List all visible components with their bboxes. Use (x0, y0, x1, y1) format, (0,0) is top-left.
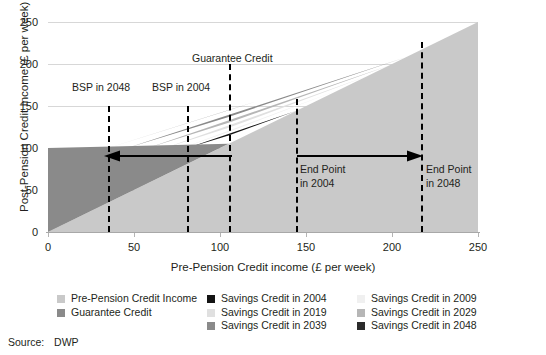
chart-figure: Post-Pension Credit Income (£ per week) … (0, 0, 546, 355)
marker-line-bsp-2048 (108, 106, 110, 232)
marker-line-bsp-2004 (187, 106, 189, 232)
marker-line-guarantee-credit (229, 64, 231, 232)
legend-swatch-pre-pension-credit-income (57, 295, 65, 303)
annotation-end-point-2004-line1: End Point (300, 163, 346, 176)
legend-label-savings-credit-2004: Savings Credit in 2004 (221, 292, 327, 306)
legend-item-savings-credit-2029: Savings Credit in 2029 (357, 306, 477, 320)
legend-label-savings-credit-2029: Savings Credit in 2029 (371, 306, 477, 320)
arrow-right-endpoint-range (295, 150, 423, 162)
annotation-guarantee-credit: Guarantee Credit (192, 52, 273, 65)
annotation-bsp-2004: BSP in 2004 (152, 81, 210, 94)
legend-item-guarantee-credit: Guarantee Credit (57, 306, 197, 320)
marker-line-end-point-2004 (296, 99, 298, 232)
legend-label-guarantee-credit: Guarantee Credit (71, 306, 152, 320)
y-axis-title: Post-Pension Credit Income (£ per week) (18, 12, 30, 212)
source-note: Source: DWP (8, 336, 79, 348)
chart-legend: Pre-Pension Credit Income Guarantee Cred… (0, 292, 546, 334)
legend-label-savings-credit-2039: Savings Credit in 2039 (221, 319, 327, 333)
source-label: Source: (8, 336, 44, 348)
x-tick-100 (220, 233, 221, 237)
y-tick-label-50: 50 (4, 184, 38, 196)
annotation-end-point-2048-line1: End Point (426, 163, 472, 176)
arrow-left-bsp-range (104, 150, 234, 162)
x-tick-0 (48, 233, 49, 237)
marker-line-end-point-2048 (421, 42, 423, 232)
legend-column-2: Savings Credit in 2004 Savings Credit in… (207, 292, 327, 333)
legend-label-pre-pension-credit-income: Pre-Pension Credit Income (71, 292, 197, 306)
legend-swatch-savings-credit-2019 (207, 309, 215, 317)
x-tick-label-50: 50 (114, 241, 154, 253)
x-tick-label-150: 150 (286, 241, 326, 253)
legend-item-savings-credit-2048: Savings Credit in 2048 (357, 319, 477, 333)
legend-item-savings-credit-2004: Savings Credit in 2004 (207, 292, 327, 306)
legend-label-savings-credit-2009: Savings Credit in 2009 (371, 292, 477, 306)
legend-label-savings-credit-2048: Savings Credit in 2048 (371, 319, 477, 333)
x-tick-50 (134, 233, 135, 237)
annotation-bsp-2048: BSP in 2048 (72, 81, 130, 94)
annotation-end-point-2048-line2: in 2048 (426, 177, 460, 190)
x-axis-title: Pre-Pension Credit income (£ per week) (0, 261, 546, 273)
y-tick-label-200: 200 (4, 58, 38, 70)
x-tick-label-0: 0 (28, 241, 68, 253)
legend-item-savings-credit-2019: Savings Credit in 2019 (207, 306, 327, 320)
legend-swatch-savings-credit-2009 (357, 295, 365, 303)
x-tick-150 (306, 233, 307, 237)
x-tick-label-200: 200 (372, 241, 412, 253)
legend-swatch-savings-credit-2029 (357, 309, 365, 317)
legend-item-savings-credit-2009: Savings Credit in 2009 (357, 292, 477, 306)
y-tick-label-150: 150 (4, 100, 38, 112)
x-axis-line (46, 232, 480, 233)
annotation-end-point-2004-line2: in 2004 (300, 177, 334, 190)
legend-swatch-guarantee-credit (57, 309, 65, 317)
legend-swatch-savings-credit-2048 (357, 322, 365, 330)
legend-swatch-savings-credit-2004 (207, 295, 215, 303)
x-tick-label-100: 100 (200, 241, 240, 253)
y-tick-label-100: 100 (4, 142, 38, 154)
legend-column-3: Savings Credit in 2009 Savings Credit in… (357, 292, 477, 333)
y-tick-label-0: 0 (4, 226, 38, 238)
x-tick-250 (478, 233, 479, 237)
legend-column-1: Pre-Pension Credit Income Guarantee Cred… (57, 292, 197, 319)
source-value: DWP (54, 336, 79, 348)
legend-item-pre-pension-credit-income: Pre-Pension Credit Income (57, 292, 197, 306)
legend-item-savings-credit-2039: Savings Credit in 2039 (207, 319, 327, 333)
y-tick-label-250: 250 (4, 16, 38, 28)
legend-swatch-savings-credit-2039 (207, 322, 215, 330)
x-tick-label-250: 250 (458, 241, 498, 253)
x-tick-200 (392, 233, 393, 237)
legend-label-savings-credit-2019: Savings Credit in 2019 (221, 306, 327, 320)
